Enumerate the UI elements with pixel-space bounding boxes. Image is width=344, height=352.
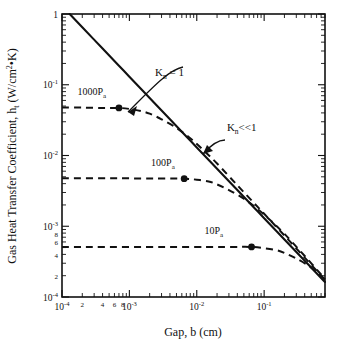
series-marker-3 [248,244,255,251]
y-axis-title-units: (W/cm [5,68,19,105]
y-tick-label: 2 [55,273,59,281]
y-tick-label: 10-4 [43,291,59,303]
series-marker-1 [116,105,123,112]
y-axis-ticks [62,14,325,297]
series-curve-0 [70,14,325,282]
x-axis-tick-labels: 10-4246810-310-210-1 [55,300,272,312]
x-tick-label: 10-4 [55,300,71,312]
series-label-1: 100Pa [151,157,176,171]
y-axis-tick-labels: 110-110-210-3864210-4 [43,10,59,303]
y-tick-label: 1 [53,10,58,20]
x-tick-label: 10-3 [122,300,137,312]
y-tick-label: 10-1 [43,78,58,90]
figure-container: 10-4246810-310-210-1 110-110-210-3864210… [0,0,344,352]
annotation-label-0: Kn = 1 [155,66,184,81]
svg-text:Gas Heat Transfer Coefficient,: Gas Heat Transfer Coefficient, ht (W/cm2… [5,48,21,264]
y-tick-label: 4 [55,252,59,260]
y-axis-title-units-tail: •K) [5,48,19,65]
annotation-label-1: Kn<<1 [227,121,257,136]
plot-frame [62,14,325,297]
x-tick-label: 6 [113,301,117,309]
y-axis-title-main: Gas Heat Transfer Coefficient, h [5,108,19,264]
gas-heat-transfer-coefficient-chart: 10-4246810-310-210-1 110-110-210-3864210… [0,0,344,352]
series-label-2: 10Pa [204,225,224,239]
series-marker-2 [181,175,188,182]
y-tick-label: 8 [55,231,59,239]
y-axis-title: Gas Heat Transfer Coefficient, ht (W/cm2… [5,48,21,264]
y-tick-label: 6 [55,239,59,247]
data-series-group [62,14,325,282]
x-tick-label: 10-2 [189,300,204,312]
x-tick-label: 4 [101,301,105,309]
x-axis-title: Gap, b (cm) [164,325,222,339]
series-curve-1 [62,108,325,280]
series-curve-2 [62,178,325,279]
x-axis-ticks [62,14,325,297]
y-tick-label: 10-2 [43,149,58,161]
x-tick-label: 2 [81,301,85,309]
series-label-0: 1000Pa [78,86,108,100]
x-tick-label: 10-1 [257,300,272,312]
annotation-leaders [128,67,225,154]
series-curve-3 [62,247,325,279]
